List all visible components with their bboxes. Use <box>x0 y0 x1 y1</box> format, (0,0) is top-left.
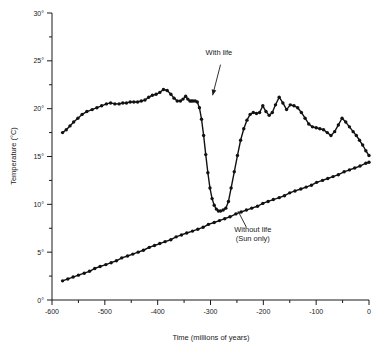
data-point <box>367 161 370 164</box>
y-tick-label: 0° <box>37 297 44 304</box>
data-point <box>261 104 264 107</box>
data-point <box>132 100 135 103</box>
data-point <box>224 206 227 209</box>
x-tick-label: -200 <box>256 308 270 315</box>
data-point <box>176 99 179 102</box>
data-point <box>191 229 194 232</box>
data-point <box>342 170 345 173</box>
x-tick-label: -500 <box>98 308 112 315</box>
data-point <box>322 128 325 131</box>
data-point <box>300 111 303 114</box>
data-point <box>314 126 317 129</box>
data-point <box>128 100 131 103</box>
data-point <box>125 101 128 104</box>
data-point <box>326 177 329 180</box>
x-tick-label: -300 <box>203 308 217 315</box>
data-point <box>204 153 207 156</box>
data-point <box>77 273 80 276</box>
data-point <box>315 181 318 184</box>
data-point <box>266 200 269 203</box>
data-point <box>310 184 313 187</box>
data-point <box>239 210 242 213</box>
data-point <box>233 170 236 173</box>
data-point <box>198 106 201 109</box>
data-point <box>277 196 280 199</box>
data-point <box>296 106 299 109</box>
data-point <box>147 95 150 98</box>
data-point <box>162 88 165 91</box>
data-point <box>95 106 98 109</box>
data-point <box>154 93 157 96</box>
data-point <box>348 168 351 171</box>
series-with-life <box>61 88 371 213</box>
data-point <box>292 104 295 107</box>
data-point <box>93 267 96 270</box>
data-point <box>174 235 177 238</box>
data-point <box>274 103 277 106</box>
data-point <box>213 204 216 207</box>
data-point <box>210 197 213 200</box>
data-point <box>229 186 232 189</box>
data-point <box>169 93 172 96</box>
data-point <box>202 134 205 137</box>
data-point <box>333 130 336 133</box>
data-point <box>206 171 209 174</box>
data-point <box>351 130 354 133</box>
data-point <box>255 112 258 115</box>
data-point <box>329 134 332 137</box>
data-point <box>100 104 103 107</box>
data-point <box>148 246 151 249</box>
data-point <box>256 205 259 208</box>
y-tick-label: 5° <box>37 249 44 256</box>
data-point <box>364 162 367 165</box>
data-point <box>136 250 139 253</box>
x-tick-label: 0 <box>367 308 371 315</box>
data-point <box>80 113 83 116</box>
data-point <box>105 102 108 105</box>
data-point <box>311 125 314 128</box>
axis-tick-labels: 0°5°10°15°20°25°30°-600-500-400-300-200-… <box>33 10 371 315</box>
data-point <box>285 108 288 111</box>
data-point <box>181 97 184 100</box>
data-point <box>61 279 64 282</box>
data-point <box>353 166 356 169</box>
data-point <box>200 117 203 120</box>
data-point <box>117 102 120 105</box>
data-point <box>65 128 68 131</box>
x-axis-title: Time (millions of years) <box>172 333 250 342</box>
temperature-history-chart: 0°5°10°15°20°25°30°-600-500-400-300-200-… <box>0 0 382 349</box>
data-point <box>281 101 284 104</box>
data-point <box>61 131 64 134</box>
data-point <box>267 114 270 117</box>
data-point <box>303 117 306 120</box>
data-series <box>61 88 371 283</box>
data-point <box>361 143 364 146</box>
data-point <box>245 118 248 121</box>
data-point <box>321 179 324 182</box>
data-point <box>218 219 221 222</box>
data-point <box>185 231 188 234</box>
data-point <box>158 91 161 94</box>
data-point <box>109 261 112 264</box>
data-point <box>234 212 237 215</box>
data-point <box>337 173 340 176</box>
data-point <box>98 265 101 268</box>
annotation-with-life-label: With life <box>206 48 233 57</box>
data-point <box>288 191 291 194</box>
data-point <box>163 240 166 243</box>
data-point <box>104 263 107 266</box>
chart-page: 0°5°10°15°20°25°30°-600-500-400-300-200-… <box>0 0 382 349</box>
data-point <box>337 123 340 126</box>
data-point <box>293 189 296 192</box>
annotation-without-life-label-line1: Without life <box>234 225 271 234</box>
data-point <box>250 206 253 209</box>
data-point <box>223 217 226 220</box>
data-point <box>239 139 242 142</box>
data-point <box>142 249 145 252</box>
data-point <box>227 200 230 203</box>
data-point <box>90 108 93 111</box>
data-point <box>196 228 199 231</box>
data-point <box>258 111 261 114</box>
data-point <box>364 149 367 152</box>
data-point <box>252 111 255 114</box>
